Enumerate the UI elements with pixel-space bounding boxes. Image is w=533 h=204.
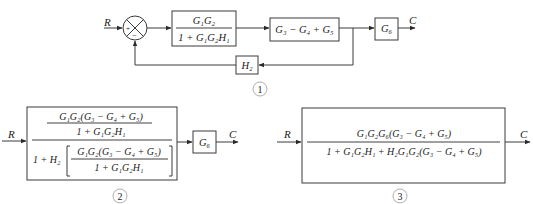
diagram-1: R + − G₁G₂ 1 + G₁G₂H₁ G₃ − G₄ + G₅ G <box>103 11 417 96</box>
input-label-r: R <box>103 16 111 28</box>
summing-junction-icon: + − <box>123 16 147 40</box>
output-label-c: C <box>520 128 528 140</box>
minus-sign: − <box>132 31 137 40</box>
plus-sign: + <box>126 25 130 33</box>
svg-text:1: 1 <box>258 84 263 95</box>
block-diagram-reduction-figure: R + − G₁G₂ 1 + G₁G₂H₁ G₃ − G₄ + G₅ G <box>0 0 533 204</box>
h2-text: H₂ <box>240 60 253 71</box>
block-g6: G₆ <box>193 131 216 153</box>
input-label-r: R <box>7 128 15 140</box>
outer-den-denominator: 1 + G₁G₂H₁ <box>95 162 144 173</box>
svg-text:3: 3 <box>398 191 403 202</box>
block-reduced-loop: G₁G₂(G₃ − G₄ + G₅) 1 + G₁G₂H₁ 1 + H₂ G₁G… <box>27 107 177 180</box>
input-label-r: R <box>283 128 291 140</box>
outer-den-numerator: G₁G₂(G₃ − G₄ + G₅) <box>77 146 161 158</box>
block-g3-g4-g5: G₃ − G₄ + G₅ <box>270 18 339 41</box>
diagram-2: R G₁G₂(G₃ − G₄ + G₅) 1 + G₁G₂H₁ 1 + H₂ G… <box>2 107 238 203</box>
block1-denominator: 1 + G₁G₂H₁ <box>178 32 229 43</box>
output-label-c: C <box>229 128 237 140</box>
tf-denominator: 1 + G₁G₂H₁ + H₂G₁G₂(G₃ − G₄ + G₅) <box>327 146 483 158</box>
block-g1g2-closed-loop: G₁G₂ 1 + G₁G₂H₁ <box>172 11 236 46</box>
g6-text: G₆ <box>199 137 211 148</box>
outer-num-numerator: G₁G₂(G₃ − G₄ + G₅) <box>59 111 143 123</box>
outer-den-prefix: 1 + H₂ <box>33 154 61 165</box>
block-overall-transfer-function: G₁G₂G₆(G₃ − G₄ + G₅) 1 + G₁G₂H₁ + H₂G₁G₂… <box>302 108 505 183</box>
diagram-1-label: 1 <box>253 82 267 96</box>
block-h2: H₂ <box>236 56 258 74</box>
block2-text: G₃ − G₄ + G₅ <box>275 24 334 35</box>
output-label-c: C <box>409 14 417 26</box>
outer-num-denominator: 1 + G₁G₂H₁ <box>77 126 126 137</box>
diagram-3-label: 3 <box>393 189 407 203</box>
block-g6: G₆ <box>375 18 398 40</box>
tf-numerator: G₁G₂G₆(G₃ − G₄ + G₅) <box>357 128 452 140</box>
g6-text: G₆ <box>381 23 393 34</box>
diagram-3: R G₁G₂G₆(G₃ − G₄ + G₅) 1 + G₁G₂H₁ + H₂G₁… <box>277 108 530 203</box>
block1-numerator: G₁G₂ <box>193 15 216 26</box>
diagram-2-label: 2 <box>113 189 127 203</box>
svg-text:2: 2 <box>118 191 123 202</box>
